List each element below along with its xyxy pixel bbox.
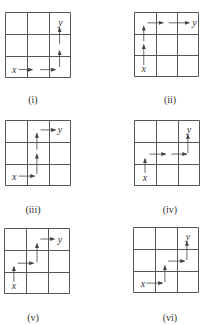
start-label: x <box>142 172 148 183</box>
start-label: x <box>140 278 146 289</box>
panel-caption: (iv) <box>150 204 190 215</box>
lattice-grid: xy <box>5 120 71 186</box>
lattice-grid: xy <box>5 12 71 78</box>
grid-panel: xy <box>134 12 199 77</box>
grid-panel: xy <box>134 120 200 186</box>
panel-caption: (iii) <box>13 204 53 215</box>
lattice-grid: xy <box>4 228 70 294</box>
panel-caption: (vi) <box>150 312 190 323</box>
grid-panel: xy <box>5 12 71 78</box>
end-label: y <box>191 17 197 28</box>
lattice-grid: xy <box>133 227 199 293</box>
start-label: x <box>11 280 17 291</box>
lattice-grid: xy <box>134 120 200 186</box>
lattice-grid: xy <box>134 12 199 77</box>
start-label: x <box>11 64 17 75</box>
end-label: y <box>185 231 191 242</box>
panel-caption: (i) <box>13 94 53 105</box>
end-label: y <box>57 234 63 245</box>
grid-panel: xy <box>5 120 71 186</box>
end-label: y <box>57 124 63 135</box>
end-label: y <box>186 124 192 135</box>
grid-panel: xy <box>133 227 199 293</box>
grid-panel: xy <box>4 228 70 294</box>
end-label: y <box>57 17 63 28</box>
start-label: x <box>141 63 147 74</box>
panel-caption: (v) <box>13 312 53 323</box>
panel-caption: (ii) <box>150 94 190 105</box>
start-label: x <box>11 171 17 182</box>
